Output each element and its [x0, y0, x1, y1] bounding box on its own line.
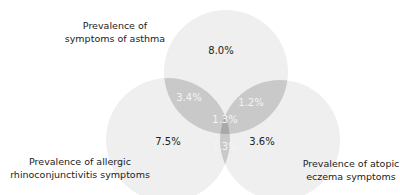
label-eczema: Prevalence of atopic eczema symptoms — [292, 157, 400, 183]
value-all-three: 1.3% — [212, 114, 237, 125]
value-asthma-rhino: 3.4% — [176, 92, 201, 103]
label-asthma-line2: symptoms of asthma — [55, 32, 175, 45]
value-asthma-eczema: 1.2% — [238, 97, 263, 108]
value-eczema-only: 3.6% — [249, 136, 274, 147]
label-eczema-line2: eczema symptoms — [292, 170, 400, 183]
value-rhino-eczema: 1.3% — [212, 141, 237, 152]
label-rhinoconjunctivitis: Prevalence of allergic rhinoconjunctivit… — [10, 155, 150, 181]
label-eczema-line1: Prevalence of atopic — [292, 157, 400, 170]
label-rhino-line2: rhinoconjunctivitis symptoms — [10, 168, 150, 181]
label-rhino-line1: Prevalence of allergic — [10, 155, 150, 168]
value-rhino-only: 7.5% — [155, 136, 180, 147]
value-asthma-only: 8.0% — [208, 45, 233, 56]
label-asthma: Prevalence of symptoms of asthma — [55, 19, 175, 45]
label-asthma-line1: Prevalence of — [55, 19, 175, 32]
